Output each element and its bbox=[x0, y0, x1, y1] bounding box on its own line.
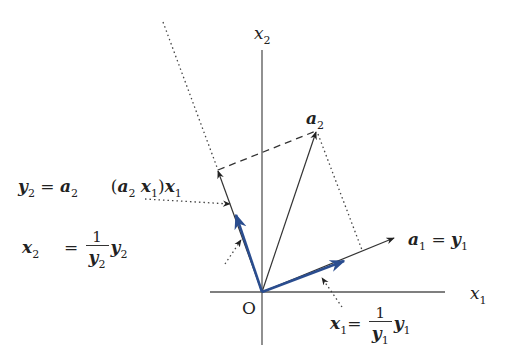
vector-a2 bbox=[262, 132, 316, 292]
y2-definition-label: y2 = a2 (a2 x1)x1 bbox=[18, 178, 182, 195]
gram-schmidt-diagram: x2 x1 O a2 a1 = y1 y2 = a2 (a2 x1)x1 x2 … bbox=[0, 0, 514, 362]
pointer-x2-label bbox=[225, 240, 241, 264]
x2-definition-label: x2 = 1 y2 y2 bbox=[22, 230, 127, 266]
unit-vector-x2 bbox=[236, 215, 262, 292]
x1-definition-label: x1= 1 y1 y1 bbox=[330, 306, 411, 342]
a2-projection-dotted-line bbox=[318, 134, 362, 250]
unit-vector-x1 bbox=[262, 261, 344, 292]
projection-dashed-line bbox=[218, 131, 316, 170]
x2-fraction: 1 y2 bbox=[86, 230, 109, 266]
y2-direction-dotted-line bbox=[163, 22, 218, 170]
origin-label: O bbox=[242, 300, 256, 317]
x1-axis-label: x1 bbox=[470, 285, 487, 302]
x2-axis-label: x2 bbox=[254, 25, 271, 42]
a1-equals-y1-label: a1 = y1 bbox=[408, 231, 468, 248]
a2-label: a2 bbox=[306, 110, 324, 127]
x1-fraction: 1 y1 bbox=[369, 306, 392, 342]
